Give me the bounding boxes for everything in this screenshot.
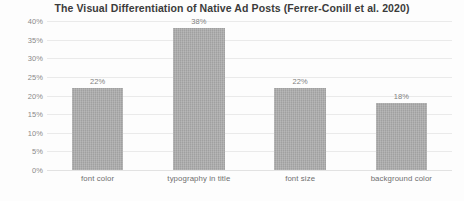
bar[interactable] xyxy=(274,88,326,170)
gridline xyxy=(47,21,452,22)
plot-area: 22%38%22%18% xyxy=(47,21,452,170)
y-axis-tick-label: 15% xyxy=(0,110,43,119)
x-axis-tick-label: background color xyxy=(351,174,452,183)
bar[interactable] xyxy=(72,88,124,170)
y-axis-tick-label: 20% xyxy=(0,91,43,100)
bar[interactable] xyxy=(173,28,225,170)
y-axis-tick-label: 0% xyxy=(0,166,43,175)
bar-value-label: 22% xyxy=(47,77,148,86)
x-axis-tick-label: font size xyxy=(250,174,351,183)
y-axis-tick-label: 5% xyxy=(0,147,43,156)
bar-value-label: 22% xyxy=(250,77,351,86)
y-axis-tick-label: 25% xyxy=(0,72,43,81)
bar-value-label: 18% xyxy=(351,92,452,101)
x-axis: font colortypography in titlefont sizeba… xyxy=(47,174,452,192)
x-axis-tick-label: font color xyxy=(47,174,148,183)
bar[interactable] xyxy=(376,103,428,170)
x-axis-tick-label: typography in title xyxy=(148,174,249,183)
gridline xyxy=(47,170,452,171)
bar-value-label: 38% xyxy=(148,17,249,26)
bar-chart: The Visual Differentiation of Native Ad … xyxy=(0,0,464,201)
y-axis-tick-label: 10% xyxy=(0,128,43,137)
gridline xyxy=(47,40,452,41)
chart-title: The Visual Differentiation of Native Ad … xyxy=(0,2,464,14)
y-axis-tick-label: 40% xyxy=(0,17,43,26)
gridline xyxy=(47,58,452,59)
y-axis-tick-label: 35% xyxy=(0,35,43,44)
y-axis-tick-label: 30% xyxy=(0,54,43,63)
y-axis: 0%5%10%15%20%25%30%35%40% xyxy=(0,21,43,170)
